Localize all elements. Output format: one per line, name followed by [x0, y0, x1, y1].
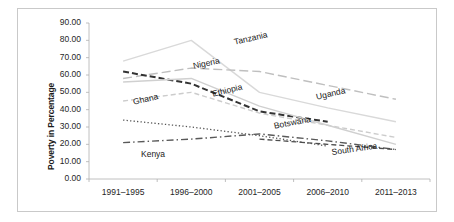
- x-tick-label: 2011–2013: [361, 187, 431, 197]
- plot-area: 90.0080.0070.0060.0050.0040.0030.0020.00…: [18, 9, 436, 211]
- x-tick-label: 2001–2005: [225, 187, 295, 197]
- line-chart-canvas: [18, 9, 438, 213]
- y-tick-label: 60.00: [41, 69, 81, 79]
- y-tick-label: 70.00: [41, 52, 81, 62]
- y-tick-label: 80.00: [41, 34, 81, 44]
- y-tick-label: 0.00: [41, 173, 81, 183]
- y-axis-title: Poverty in Percentage: [46, 83, 56, 170]
- x-tick-label: 2006–2010: [293, 187, 363, 197]
- chart-frame: 90.0080.0070.0060.0050.0040.0030.0020.00…: [17, 8, 437, 212]
- series-label-kenya: Kenya: [141, 149, 165, 159]
- x-tick-label: 1996–2000: [156, 187, 226, 197]
- x-tick-label: 1991–1995: [88, 187, 158, 197]
- series-line-ghana: [123, 92, 396, 137]
- series-line-tanzania: [123, 40, 396, 121]
- series-paths: [123, 40, 396, 149]
- series-line-nigeria: [123, 68, 396, 99]
- y-tick-label: 90.00: [41, 17, 81, 27]
